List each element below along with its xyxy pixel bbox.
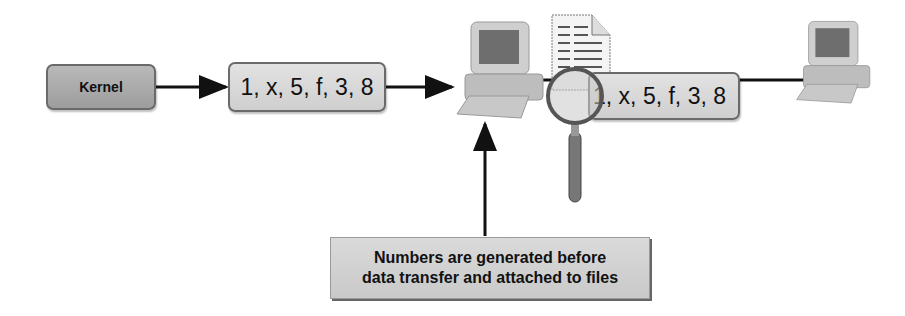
caption-line-2: data transfer and attached to files [331,268,649,288]
caption-box: Numbers are generated before data transf… [330,237,650,299]
caption-line-1: Numbers are generated before [331,248,649,268]
computer-icon [797,21,870,103]
